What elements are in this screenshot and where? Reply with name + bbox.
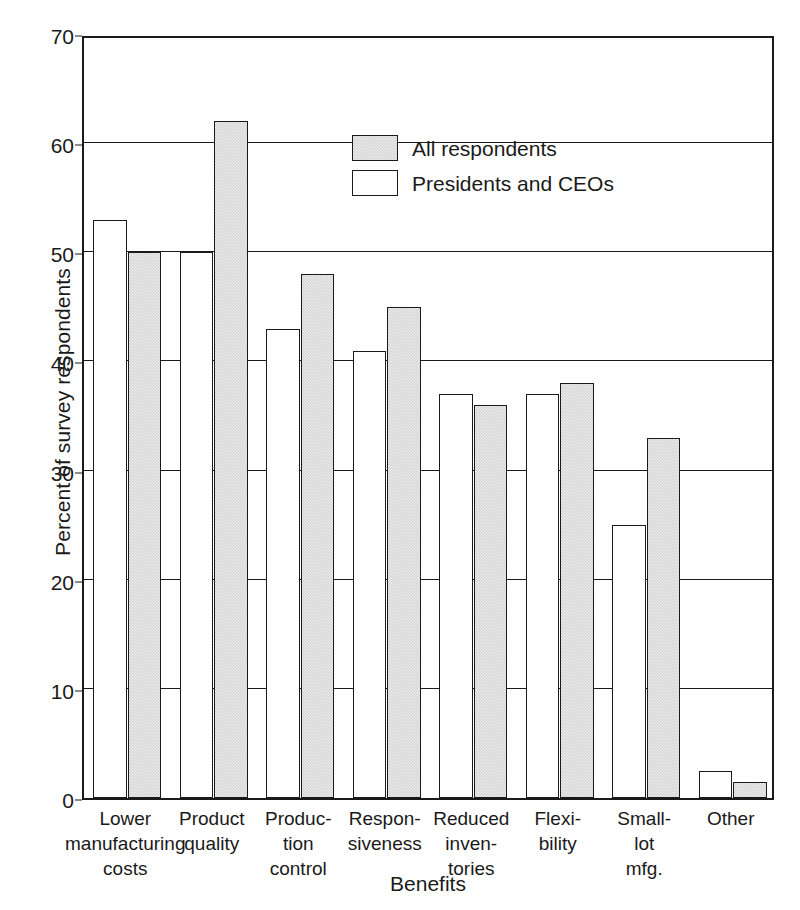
y-tick-label-40: 40 (36, 353, 74, 374)
x-tick-label-7: Other (640, 806, 800, 831)
bar-0-3 (353, 351, 387, 798)
legend-label-0: All respondents (412, 138, 557, 159)
y-tick-mark-40 (75, 363, 82, 364)
bar-1-7 (733, 782, 767, 798)
legend-label-1: Presidents and CEOs (412, 173, 614, 194)
bar-0-7 (699, 771, 733, 798)
bar-1-4 (474, 405, 508, 798)
legend-swatch-gray (352, 135, 398, 161)
bar-0-0 (93, 220, 127, 798)
y-tick-mark-50 (75, 254, 82, 255)
bar-chart-figure: Percent of survey respondents 7060504030… (0, 0, 800, 910)
y-tick-mark-0 (75, 800, 82, 801)
y-tick-mark-70 (75, 36, 82, 37)
bar-0-6 (612, 525, 646, 798)
bar-0-4 (439, 394, 473, 798)
x-axis-title: Benefits (82, 872, 774, 896)
y-tick-mark-10 (75, 690, 82, 691)
bar-0-1 (180, 252, 214, 798)
bar-0-5 (526, 394, 560, 798)
y-tick-mark-20 (75, 581, 82, 582)
y-tick-label-50: 50 (36, 244, 74, 265)
legend-item-0: All respondents (352, 132, 614, 164)
legend-item-1: Presidents and CEOs (352, 167, 614, 199)
bar-1-1 (214, 121, 248, 798)
y-tick-label-20: 20 (36, 571, 74, 592)
y-tick-label-60: 60 (36, 135, 74, 156)
chart-legend: All respondentsPresidents and CEOs (352, 132, 614, 202)
bar-1-2 (301, 274, 335, 798)
y-tick-label-30: 30 (36, 462, 74, 483)
bar-1-0 (128, 252, 162, 798)
y-axis-tick-labels: 706050403020100 (36, 24, 74, 800)
bar-1-6 (647, 438, 681, 798)
bar-0-2 (266, 329, 300, 798)
legend-swatch-white (352, 170, 398, 196)
bar-1-5 (560, 383, 594, 798)
y-tick-label-70: 70 (36, 26, 74, 47)
y-tick-mark-30 (75, 472, 82, 473)
y-tick-label-10: 10 (36, 680, 74, 701)
y-tick-mark-60 (75, 145, 82, 146)
bar-1-3 (387, 307, 421, 798)
